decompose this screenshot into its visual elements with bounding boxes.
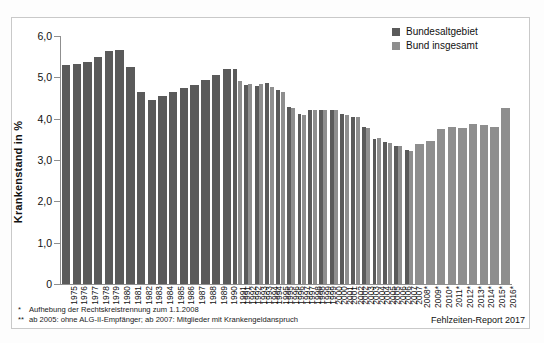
- bar: [201, 80, 209, 284]
- x-axis-tick-label: 1979: [112, 286, 120, 305]
- bar: [373, 139, 377, 284]
- y-axis-tick: [54, 201, 60, 202]
- y-axis-tick-label: 5,0: [37, 72, 52, 83]
- bar: [169, 92, 177, 284]
- bar: [105, 51, 113, 284]
- bar-slot: [340, 36, 351, 284]
- legend-swatch-icon: [392, 42, 400, 50]
- bar: [448, 127, 456, 284]
- bar-slot: [286, 36, 297, 284]
- source-label: Fehlzeiten-Report 2017: [431, 315, 525, 325]
- x-axis-tick-label: 2015*: [498, 286, 506, 308]
- bar-slot: [393, 36, 404, 284]
- x-axis-tick-label: 1984: [166, 286, 174, 305]
- bar: [298, 114, 302, 284]
- bar: [340, 114, 344, 284]
- footnote-text: Aufhebung der Rechtskreistrennung zum 1.…: [29, 305, 199, 314]
- x-axis-tick-label: 1980: [123, 286, 131, 305]
- bar-slot: [479, 36, 490, 284]
- x-axis-tick-label: 1986: [187, 286, 195, 305]
- bar: [313, 110, 317, 284]
- x-axis-tick-label: 2014*: [487, 286, 495, 308]
- bar-slot: [382, 36, 393, 284]
- bar-slot: [350, 36, 361, 284]
- bar: [238, 81, 242, 284]
- bar: [308, 110, 312, 284]
- bar-slot: [457, 36, 468, 284]
- bar-slot: [179, 36, 190, 284]
- bar: [366, 128, 370, 284]
- y-axis-tick: [54, 160, 60, 161]
- bar-slot: [190, 36, 201, 284]
- bar: [469, 124, 477, 284]
- y-axis-tick: [54, 243, 60, 244]
- bar: [480, 125, 488, 284]
- bar-slot: [157, 36, 168, 284]
- bar: [501, 108, 509, 284]
- bar-slot: [72, 36, 83, 284]
- y-axis-tick-label: 4,0: [37, 113, 52, 124]
- bar-group: [61, 36, 511, 284]
- bar: [73, 64, 81, 284]
- footnote-2: **ab 2005: ohne ALG-II-Empfänger; ab 200…: [18, 315, 298, 325]
- bar-slot: [115, 36, 126, 284]
- y-axis-tick-label: 1,0: [37, 237, 52, 248]
- bar: [388, 143, 392, 284]
- bar: [377, 138, 381, 284]
- bar-slot: [436, 36, 447, 284]
- bar: [334, 110, 338, 284]
- bar: [244, 85, 248, 284]
- bar: [126, 67, 134, 284]
- bar-slot: [329, 36, 340, 284]
- chart-figure: Krankenstand in % 01,02,03,04,05,06,0 19…: [0, 0, 544, 343]
- bar: [158, 96, 166, 284]
- bar: [276, 90, 280, 284]
- y-axis-tick-label: 6,0: [37, 31, 52, 42]
- x-axis-tick-label: 2011*: [455, 286, 463, 307]
- bar: [415, 144, 423, 284]
- bar-slot: [136, 36, 147, 284]
- bar: [212, 75, 220, 284]
- bar: [94, 57, 102, 284]
- bar: [233, 69, 237, 284]
- x-axis-tick-label: 1982: [145, 286, 153, 305]
- bar: [259, 84, 263, 284]
- bar: [351, 117, 355, 284]
- bar-slot: [61, 36, 72, 284]
- bar: [394, 146, 398, 284]
- x-axis-tick-label: 1981: [134, 286, 142, 305]
- y-axis-tick: [54, 284, 60, 285]
- bar: [302, 115, 306, 284]
- bar: [345, 115, 349, 284]
- footnote-marker: **: [18, 315, 29, 325]
- bar-slot: [200, 36, 211, 284]
- bar: [409, 151, 413, 284]
- x-axis-tick-label: 2010*: [445, 286, 453, 308]
- x-axis-tick-label: 2008*: [423, 286, 431, 308]
- bar: [398, 146, 402, 284]
- bar: [137, 92, 145, 284]
- bar-slot: [447, 36, 458, 284]
- bar-slot: [82, 36, 93, 284]
- bar: [405, 150, 409, 284]
- x-axis-tick-label: 2009*: [434, 286, 442, 308]
- x-axis-tick-label: 1987: [198, 286, 206, 305]
- bar: [248, 84, 252, 284]
- legend-swatch-icon: [392, 28, 400, 36]
- x-axis-tick-label: 1975: [70, 286, 78, 305]
- x-axis-tick-label: 2013*: [477, 286, 485, 308]
- footnote-text: ab 2005: ohne ALG-II-Empfänger; ab 2007:…: [29, 315, 298, 324]
- y-axis-tick: [54, 36, 60, 37]
- legend-item-bundesaltgebiet: Bundesaltgebiet: [392, 27, 478, 37]
- y-axis-tick: [54, 119, 60, 120]
- bar: [437, 129, 445, 284]
- x-axis-tick-label: 2012*: [466, 286, 474, 308]
- chart-legend: Bundesaltgebiet Bund insgesamt: [392, 27, 478, 55]
- bar-slot: [275, 36, 286, 284]
- bar-slot: [211, 36, 222, 284]
- y-axis-tick: [54, 77, 60, 78]
- y-axis-tick-label: 2,0: [37, 196, 52, 207]
- bar: [458, 128, 466, 284]
- bar: [383, 142, 387, 284]
- bar: [287, 107, 291, 284]
